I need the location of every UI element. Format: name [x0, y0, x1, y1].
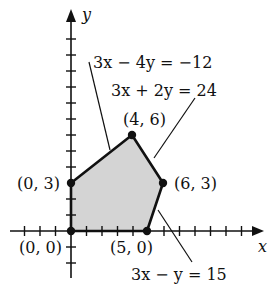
feasible-region-diagram: y x 3x − 4y = −12 3x + 2y = 24 3x − y = … — [0, 0, 274, 298]
y-axis-arrow-icon — [66, 9, 76, 22]
vertex-label-0-3: (0, 3) — [17, 174, 60, 193]
feasible-region — [71, 135, 163, 231]
leader-line-3x-y — [158, 210, 192, 262]
x-axis-arrow-icon — [252, 226, 264, 236]
vertex-label-6-3: (6, 3) — [174, 174, 217, 193]
constraint-label-3: 3x − y = 15 — [131, 265, 227, 284]
y-axis-label: y — [81, 5, 92, 24]
constraint-label-2: 3x + 2y = 24 — [111, 81, 217, 100]
vertex-6-3 — [159, 179, 167, 187]
vertex-0-0 — [67, 227, 75, 235]
vertex-0-3 — [67, 179, 75, 187]
vertex-label-5-0: (5, 0) — [110, 238, 153, 257]
leader-line-3x-4y — [89, 62, 110, 150]
vertex-5-0 — [143, 227, 151, 235]
vertex-4-6 — [128, 131, 136, 139]
vertex-label-0-0: (0, 0) — [19, 238, 62, 257]
x-axis-label: x — [258, 237, 267, 256]
constraint-label-1: 3x − 4y = −12 — [93, 53, 212, 72]
y-axis — [66, 9, 76, 278]
vertex-label-4-6: (4, 6) — [123, 110, 166, 129]
